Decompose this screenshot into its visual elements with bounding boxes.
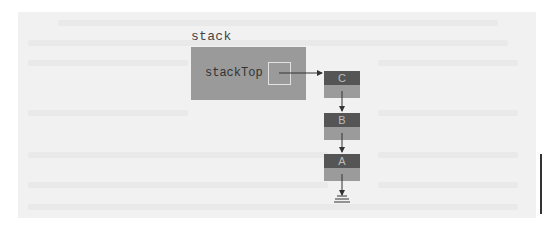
margin-rule — [540, 154, 542, 214]
ground-icon — [334, 196, 350, 202]
pointer-arrows — [0, 0, 546, 230]
